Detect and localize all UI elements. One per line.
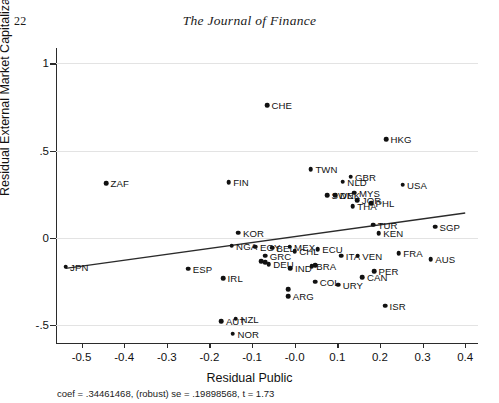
data-point-label: NZL bbox=[240, 313, 258, 324]
x-tick-mark bbox=[252, 343, 253, 348]
y-tick-label: 1 bbox=[43, 57, 49, 69]
x-tick-mark bbox=[465, 343, 466, 348]
data-point-label: KEN bbox=[383, 228, 403, 239]
data-point bbox=[333, 193, 338, 198]
data-point bbox=[270, 245, 275, 250]
x-axis-title: Residual Public bbox=[0, 371, 499, 385]
x-axis-line bbox=[56, 343, 478, 344]
x-tick-label: 0.2 bbox=[372, 351, 388, 363]
data-point bbox=[360, 275, 365, 280]
x-tick-mark bbox=[380, 343, 381, 348]
data-point bbox=[313, 263, 318, 268]
data-point-label: SGP bbox=[439, 221, 460, 232]
data-point bbox=[286, 294, 291, 299]
data-point bbox=[186, 266, 191, 271]
data-point-label: NLD bbox=[347, 176, 367, 187]
regression-line bbox=[56, 53, 478, 339]
data-point bbox=[371, 222, 376, 227]
data-point bbox=[226, 180, 231, 185]
x-tick-mark bbox=[167, 343, 168, 348]
data-point bbox=[236, 230, 241, 235]
y-tick-label: -.5 bbox=[36, 319, 49, 331]
x-tick-label: -0.4 bbox=[114, 351, 134, 363]
data-point-label: TWN bbox=[315, 164, 337, 175]
x-tick-label: 0.3 bbox=[415, 351, 431, 363]
x-tick-label: -0.3 bbox=[157, 351, 177, 363]
data-point-label: ISR bbox=[390, 300, 406, 311]
data-point bbox=[229, 243, 234, 248]
data-point bbox=[396, 251, 401, 256]
data-point bbox=[263, 254, 268, 259]
data-point bbox=[355, 254, 360, 259]
data-point bbox=[219, 319, 224, 324]
data-point bbox=[253, 244, 258, 249]
data-point bbox=[339, 254, 344, 259]
plot-area: 1.50-.5 -0.5-0.4-0.3-0.2-0.1-0.00.10.20.… bbox=[56, 53, 478, 339]
data-point bbox=[369, 201, 374, 206]
data-point-label: IRL bbox=[228, 273, 243, 284]
data-point bbox=[313, 279, 318, 284]
data-point-label: CHE bbox=[272, 100, 293, 111]
x-tick-mark bbox=[82, 343, 83, 348]
x-tick-label: 0.1 bbox=[329, 351, 345, 363]
data-point-label: KOR bbox=[243, 227, 264, 238]
data-point bbox=[428, 257, 433, 262]
data-point-label: THA bbox=[357, 201, 377, 212]
data-point bbox=[433, 224, 438, 229]
data-point bbox=[309, 167, 314, 172]
data-point-label: HKG bbox=[390, 134, 411, 145]
figure-page: 22 The Journal of Finance Residual Exter… bbox=[0, 0, 499, 403]
data-point-label: CAN bbox=[367, 271, 388, 282]
data-point bbox=[63, 265, 68, 270]
data-point-label: ARG bbox=[293, 291, 314, 302]
x-tick-mark bbox=[423, 343, 424, 348]
data-point-label: AUS bbox=[435, 254, 455, 265]
data-point bbox=[325, 193, 330, 198]
data-point bbox=[315, 247, 320, 252]
data-point bbox=[266, 262, 271, 267]
x-tick-label: 0.4 bbox=[457, 351, 473, 363]
data-point-label: ZAF bbox=[111, 178, 129, 189]
regression-annotation: coef = .34461468, (robust) se = .1989856… bbox=[57, 388, 274, 399]
data-point bbox=[221, 276, 226, 281]
journal-title: The Journal of Finance bbox=[0, 13, 499, 29]
x-tick-label: -0.0 bbox=[285, 351, 305, 363]
x-tick-mark bbox=[337, 343, 338, 348]
y-tick-label: 0 bbox=[43, 232, 49, 244]
x-tick-mark bbox=[124, 343, 125, 348]
data-point bbox=[287, 244, 292, 249]
x-tick-mark bbox=[295, 343, 296, 348]
x-tick-label: -0.1 bbox=[242, 351, 262, 363]
y-tick-label: .5 bbox=[39, 145, 49, 157]
x-tick-mark bbox=[209, 343, 210, 348]
data-point bbox=[383, 304, 388, 309]
data-point-label: PHL bbox=[376, 198, 395, 209]
y-axis-title: Residual External Market Capitalization … bbox=[0, 0, 12, 196]
data-point-label: FRA bbox=[403, 248, 423, 259]
data-point-label: JPN bbox=[70, 261, 88, 272]
data-point-label: URY bbox=[343, 279, 363, 290]
data-point bbox=[352, 190, 357, 195]
data-point bbox=[104, 181, 109, 186]
data-point bbox=[231, 331, 236, 336]
x-tick-label: -0.2 bbox=[200, 351, 220, 363]
data-point bbox=[292, 249, 297, 254]
data-point bbox=[234, 316, 239, 321]
data-point bbox=[384, 137, 389, 142]
data-point-label: ESP bbox=[193, 263, 213, 274]
data-point bbox=[350, 204, 355, 209]
running-head: 22 The Journal of Finance bbox=[0, 0, 499, 36]
data-point-label: BRA bbox=[316, 261, 336, 272]
data-point bbox=[336, 282, 341, 287]
scatter-figure: Residual External Market Capitalization … bbox=[0, 36, 499, 403]
data-point-label: USA bbox=[407, 179, 427, 190]
data-point-label: NOR bbox=[237, 328, 259, 339]
data-point bbox=[376, 231, 381, 236]
data-point-label: VEN bbox=[362, 250, 382, 261]
data-point bbox=[288, 266, 293, 271]
data-point bbox=[265, 103, 270, 108]
x-tick-label: -0.5 bbox=[72, 351, 92, 363]
data-point bbox=[341, 179, 346, 184]
data-point-label: FIN bbox=[233, 177, 249, 188]
data-point bbox=[400, 182, 405, 187]
